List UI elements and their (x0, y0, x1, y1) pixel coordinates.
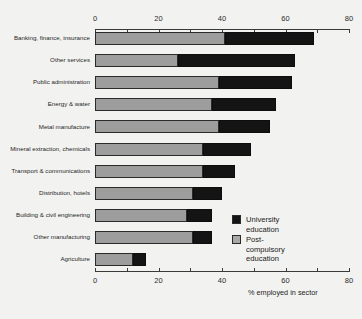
axis-tick (190, 268, 191, 272)
bar-segment-university (212, 98, 276, 111)
x-tick-label-top: 80 (334, 14, 362, 23)
x-tick-label-top: 40 (207, 14, 237, 23)
legend-label: Post-compulsory education (246, 235, 285, 264)
x-tick-label-bottom: 20 (144, 276, 174, 285)
legend-swatch-uni (232, 215, 241, 224)
legend-swatch-post (232, 235, 241, 244)
bar-row (0, 187, 362, 200)
bar-segment-post-compulsory (95, 120, 219, 133)
bar-segment-post-compulsory (95, 54, 178, 67)
bar-row (0, 76, 362, 89)
bar-row (0, 231, 362, 244)
bar-row (0, 32, 362, 45)
bar-row (0, 165, 362, 178)
bar-segment-university (219, 120, 270, 133)
x-tick-label-top: 60 (271, 14, 301, 23)
axis-tick (317, 268, 318, 272)
x-tick-label-bottom: 60 (271, 276, 301, 285)
bar-segment-post-compulsory (95, 253, 133, 266)
bar-row (0, 143, 362, 156)
bar-row (0, 54, 362, 67)
stacked-bar-chart: 020406080020406080Banking, finance, insu… (0, 0, 362, 319)
bar-row (0, 120, 362, 133)
axis-tick (286, 268, 287, 272)
bar-segment-university (219, 76, 292, 89)
bar-segment-university (178, 54, 295, 67)
bar-segment-post-compulsory (95, 32, 225, 45)
legend-label: University education (246, 215, 279, 234)
bar-segment-post-compulsory (95, 165, 203, 178)
x-tick-label-top: 0 (80, 14, 110, 23)
x-axis-title: % employed in sector (248, 288, 318, 297)
x-tick-label-top: 20 (144, 14, 174, 23)
bar-segment-post-compulsory (95, 143, 203, 156)
axis-tick (127, 268, 128, 272)
bar-segment-post-compulsory (95, 231, 193, 244)
bar-segment-post-compulsory (95, 187, 193, 200)
x-tick-label-bottom: 80 (334, 276, 362, 285)
axis-tick (254, 268, 255, 272)
bar-segment-university (203, 165, 235, 178)
bar-segment-university (193, 231, 212, 244)
bar-segment-university (225, 32, 314, 45)
legend-item: University education (232, 215, 279, 234)
axis-tick (222, 268, 223, 272)
x-tick-label-bottom: 0 (80, 276, 110, 285)
bar-segment-university (203, 143, 251, 156)
axis-tick (95, 268, 96, 272)
x-axis-bottom (95, 271, 350, 272)
axis-tick (349, 268, 350, 272)
bar-segment-university (193, 187, 222, 200)
bar-segment-post-compulsory (95, 209, 187, 222)
bar-segment-post-compulsory (95, 98, 212, 111)
axis-tick (159, 268, 160, 272)
legend-item: Post-compulsory education (232, 235, 285, 264)
bar-row (0, 209, 362, 222)
bar-row (0, 98, 362, 111)
bar-segment-university (187, 209, 212, 222)
x-tick-label-bottom: 40 (207, 276, 237, 285)
bar-row (0, 253, 362, 266)
bar-segment-post-compulsory (95, 76, 219, 89)
bar-segment-university (133, 253, 146, 266)
